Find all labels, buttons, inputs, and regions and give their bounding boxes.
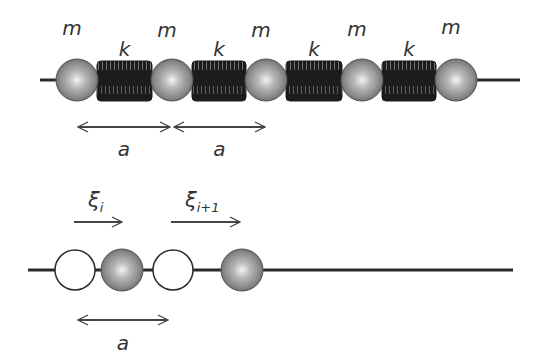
chain-diagram: mmmmmkkkk aa ξiξi+1 a: [0, 0, 546, 358]
lattice-spacing-arrows: aa: [78, 127, 265, 161]
lattice-spacing-label: a: [117, 331, 129, 355]
displacement-label: ξi+1: [184, 188, 220, 215]
mass-ball-icon: [56, 59, 98, 101]
lattice-spacing-label: a: [118, 137, 130, 161]
mass-label: m: [62, 16, 81, 40]
spring-constant-label: k: [308, 37, 321, 61]
mass-label: m: [441, 15, 460, 39]
mass-label: m: [251, 18, 270, 42]
bottom-spacing-arrow: a: [78, 320, 168, 355]
spring-constant-label: k: [403, 37, 416, 61]
displacement-arrows: ξiξi+1: [74, 188, 240, 222]
mass-ball-icon: [435, 59, 477, 101]
equilibrium-position-circle-icon: [55, 250, 95, 290]
diagram-canvas: mmmmmkkkk aa ξiξi+1 a: [0, 0, 546, 358]
mass-ball-icon: [245, 59, 287, 101]
mass-ball-icon: [151, 59, 193, 101]
bottom-chain: ξiξi+1 a: [28, 188, 513, 355]
displaced-mass-ball-icon: [101, 249, 143, 291]
spring-constant-label: k: [213, 37, 226, 61]
spring-icon: [97, 61, 152, 101]
lattice-spacing-label: a: [213, 137, 225, 161]
spring-icon: [382, 61, 436, 101]
displacement-label: ξi: [87, 188, 104, 215]
spring-icon: [286, 61, 342, 101]
mass-label: m: [347, 17, 366, 41]
spring-icon: [192, 61, 246, 101]
top-chain: mmmmmkkkk aa: [40, 15, 520, 161]
bottom-masses: [55, 249, 263, 291]
mass-label: m: [157, 18, 176, 42]
equilibrium-position-circle-icon: [153, 250, 193, 290]
mass-ball-icon: [341, 59, 383, 101]
mass-spring-labels: mmmmmkkkk: [62, 15, 460, 61]
displaced-mass-ball-icon: [221, 249, 263, 291]
spring-constant-label: k: [119, 37, 132, 61]
